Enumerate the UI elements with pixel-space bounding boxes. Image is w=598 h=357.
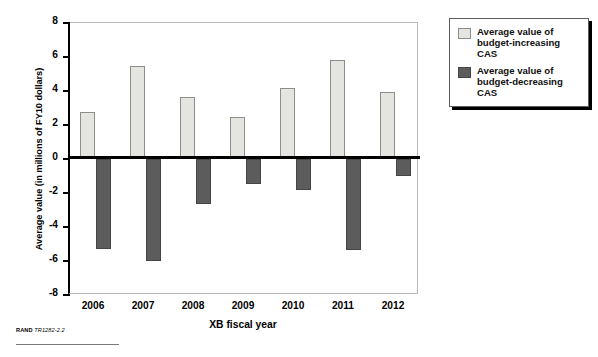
chart-legend: Average value of budget-increasing CAS A… (449, 18, 589, 107)
y-tick-mark (63, 90, 70, 92)
y-tick-label: -8 (30, 287, 58, 298)
legend-item: Average value of budget-decreasing CAS (458, 66, 581, 98)
plot-area (68, 22, 418, 294)
credit-number: TR1282-2.2 (34, 327, 65, 333)
figure-credit: RAND TR1282-2.2 (16, 327, 65, 333)
y-tick-mark (63, 260, 70, 262)
footer-rule (16, 344, 119, 345)
x-tick-label-2012: 2012 (363, 300, 423, 311)
legend-swatch-budget-increasing (458, 28, 471, 39)
legend-label-budget-increasing: Average value of budget-increasing CAS (477, 27, 581, 59)
bar-budget-decreasing-2006 (96, 159, 111, 249)
bar-budget-increasing-2009 (230, 117, 245, 160)
bar-budget-increasing-2007 (130, 66, 145, 160)
y-tick-mark (63, 158, 70, 160)
y-tick-label: 8 (30, 15, 58, 26)
bar-budget-increasing-2011 (330, 60, 345, 159)
y-tick-mark (63, 226, 70, 228)
bar-budget-decreasing-2008 (196, 159, 211, 204)
bar-budget-decreasing-2007 (146, 159, 161, 261)
bar-budget-decreasing-2012 (396, 159, 411, 176)
zero-axis-line (70, 156, 420, 159)
bar-budget-increasing-2010 (280, 88, 295, 159)
y-tick-mark (63, 294, 70, 296)
bar-budget-increasing-2008 (180, 97, 195, 159)
bar-budget-decreasing-2011 (346, 159, 361, 250)
y-tick-label: 6 (30, 49, 58, 60)
x-axis-title: XB fiscal year (68, 319, 418, 330)
legend-label-budget-decreasing: Average value of budget-decreasing CAS (477, 66, 581, 98)
bar-budget-decreasing-2009 (246, 159, 261, 184)
bar-budget-increasing-2006 (80, 112, 95, 159)
y-tick-label: 4 (30, 83, 58, 94)
y-tick-label: -4 (30, 219, 58, 230)
credit-brand: RAND (16, 327, 34, 333)
legend-item: Average value of budget-increasing CAS (458, 27, 581, 59)
y-tick-mark (63, 56, 70, 58)
figure: Average value (in millions of FY10 dolla… (0, 0, 598, 357)
bar-budget-decreasing-2010 (296, 159, 311, 190)
bar-series-container (70, 23, 420, 295)
y-tick-mark (63, 22, 70, 24)
y-tick-mark (63, 124, 70, 126)
bar-budget-increasing-2012 (380, 92, 395, 159)
legend-swatch-budget-decreasing (458, 67, 471, 78)
y-tick-label: 0 (30, 151, 58, 162)
y-tick-label: -6 (30, 253, 58, 264)
y-tick-mark (63, 192, 70, 194)
y-tick-label: 2 (30, 117, 58, 128)
y-tick-label: -2 (30, 185, 58, 196)
